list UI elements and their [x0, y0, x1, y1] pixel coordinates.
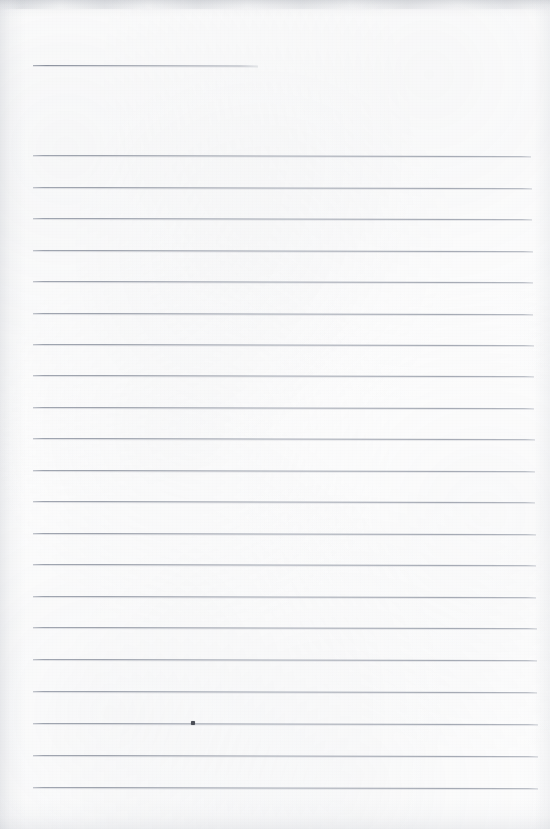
ruled-line-title	[33, 65, 258, 66]
ruled-line-11	[33, 470, 535, 472]
ruled-line-07	[33, 344, 534, 346]
ruled-line-05	[33, 281, 533, 283]
ruled-line-17	[33, 659, 537, 661]
scanned-page	[0, 0, 550, 829]
ruled-line-09	[33, 407, 534, 409]
ruled-line-08	[33, 375, 534, 377]
paper-background	[0, 0, 550, 829]
ruled-line-10	[33, 438, 535, 440]
ruled-line-12	[33, 501, 535, 503]
ruled-line-06	[33, 313, 533, 315]
ruled-line-01	[33, 155, 531, 157]
ruled-line-14	[33, 564, 536, 566]
ruled-line-21	[33, 787, 538, 789]
ruled-line-19	[33, 723, 538, 725]
ruled-line-02	[33, 187, 532, 189]
ruled-line-03	[33, 218, 532, 220]
ruled-line-04	[33, 250, 533, 252]
ruled-line-18	[33, 691, 537, 693]
ruled-line-20	[33, 755, 538, 757]
ruled-line-15	[33, 596, 536, 598]
ink-speck-01	[191, 721, 195, 725]
ruled-line-16	[33, 627, 537, 629]
ruled-line-13	[33, 533, 536, 535]
